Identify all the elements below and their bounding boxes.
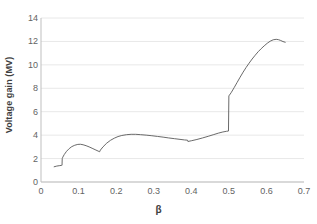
x-axis-label: β (0, 204, 317, 215)
x-axis-tick-label: 0.3 (147, 186, 160, 196)
x-axis-tick-labels: 00.10.20.30.40.50.60.7 (0, 186, 317, 200)
x-axis-label-text: β (155, 204, 161, 215)
x-axis-tick-label: 0 (38, 186, 43, 196)
gridlines (41, 18, 304, 182)
chart-container: Voltage gain (MV) 02468101214 00.10.20.3… (0, 0, 317, 224)
data-series-line (54, 39, 285, 166)
x-axis-tick-label: 0.7 (298, 186, 311, 196)
x-axis-tick-label: 0.6 (260, 186, 273, 196)
x-axis-tick-label: 0.1 (72, 186, 85, 196)
x-axis-tick-label: 0.4 (185, 186, 198, 196)
x-axis-tick-label: 0.2 (110, 186, 123, 196)
x-axis-tick-label: 0.5 (223, 186, 236, 196)
